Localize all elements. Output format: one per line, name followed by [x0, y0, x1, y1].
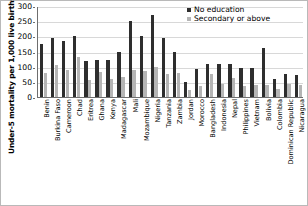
x-axis-category-label: Nigeria [155, 99, 162, 123]
y-axis-tick-mark [33, 37, 35, 38]
x-axis-category-label: Burkina Faso [55, 99, 62, 141]
bar-group [93, 7, 104, 97]
legend-swatch-icon [187, 8, 191, 12]
y-axis-tick-label: 150 [18, 49, 33, 57]
y-axis-tick-label: 200 [18, 34, 33, 42]
bar-group [138, 7, 149, 97]
bar-group [160, 7, 171, 97]
legend-label: No education [194, 5, 244, 14]
x-axis-category-labels: BeninBurkina FasoCameroonChadEritreaGhan… [37, 99, 303, 203]
bar-group [271, 7, 282, 97]
bar-sa [44, 73, 47, 97]
x-axis-category-label: Philippines [243, 99, 250, 135]
y-axis-tick-mark [33, 98, 35, 99]
bar-sa [188, 90, 191, 97]
bar-sa [299, 85, 302, 97]
bar-sa [276, 89, 279, 97]
bar-sa [110, 79, 113, 97]
legend-item: No education [187, 5, 270, 14]
legend: No educationSecondary or above [187, 5, 270, 23]
x-axis-category-label: Bolivia [266, 99, 273, 121]
bar-sa [287, 84, 290, 97]
bar-sa [199, 86, 202, 97]
bar-sa [99, 72, 102, 97]
x-axis-category-label: Dominican Republic [288, 99, 295, 165]
x-axis-category-label: Chad [77, 99, 84, 116]
y-axis-tick-label: 0 [27, 94, 32, 102]
legend-item: Secondary or above [187, 14, 270, 23]
x-axis-category-label: Eritrea [88, 99, 95, 121]
bar-group [171, 7, 182, 97]
bar-sa [221, 84, 224, 97]
bar-sa [88, 80, 91, 97]
y-axis-tick-label: 100 [18, 64, 33, 72]
bar-sa [210, 74, 213, 97]
bar-sa [166, 74, 169, 97]
y-axis-tick-mark [33, 83, 35, 84]
bar-sa [243, 86, 246, 97]
x-axis-category-label: Nicaragua [299, 99, 306, 133]
y-axis-tick-mark [33, 68, 35, 69]
bar-sa [143, 71, 146, 97]
bar-sa [66, 70, 69, 97]
bar-group [116, 7, 127, 97]
x-axis-category-label: Bangladesh [210, 99, 217, 138]
y-axis-tick-labels: 050100150200250300 [1, 7, 35, 98]
x-axis-category-label: Indonesia [221, 99, 228, 131]
legend-label: Secondary or above [194, 14, 270, 23]
y-axis-tick-mark [33, 22, 35, 23]
bar-group [127, 7, 138, 97]
bar-sa [132, 70, 135, 97]
x-axis-category-label: Madagascar [121, 99, 128, 139]
x-axis-category-label: Nepal [232, 99, 239, 118]
y-axis-tick-label: 50 [22, 79, 32, 87]
y-axis-tick-mark [33, 7, 35, 8]
bar-group [105, 7, 116, 97]
x-axis-category-label: Morocco [199, 99, 206, 127]
bar-sa [254, 85, 257, 97]
x-axis-category-label: Mali [133, 99, 140, 112]
bar-group [60, 7, 71, 97]
chart-container: Under-5 mortality per 1,000 live births … [0, 0, 308, 206]
bar-sa [177, 73, 180, 97]
bar-sa [265, 85, 268, 97]
bar-sa [154, 67, 157, 97]
bar-group [149, 7, 160, 97]
legend-swatch-icon [187, 17, 191, 21]
x-axis-category-label: Mozambique [144, 99, 151, 141]
x-axis-category-label: Vietnam [254, 99, 261, 126]
y-axis-tick-label: 250 [18, 18, 33, 26]
y-axis-tick-mark [33, 53, 35, 54]
x-axis-category-label: Ghana [99, 99, 106, 121]
bar-group [293, 7, 304, 97]
bar-sa [77, 57, 80, 97]
bar-group [71, 7, 82, 97]
x-axis-category-label: Jordan [188, 99, 195, 120]
bar-group [82, 7, 93, 97]
x-axis-category-label: Tanzania [166, 99, 173, 128]
x-axis-category-label: Kenya [110, 99, 117, 119]
x-axis-category-label: Zambia [177, 99, 184, 124]
bar-group [38, 7, 49, 97]
bar-group [282, 7, 293, 97]
bar-sa [121, 77, 124, 97]
x-axis-category-label: Benin [44, 99, 51, 118]
y-axis-tick-label: 300 [18, 3, 33, 11]
x-axis-category-label: Cameroon [66, 99, 73, 133]
x-axis-category-label: Colombia [277, 99, 284, 130]
bar-group [49, 7, 60, 97]
bar-sa [55, 65, 58, 97]
bar-sa [232, 78, 235, 97]
